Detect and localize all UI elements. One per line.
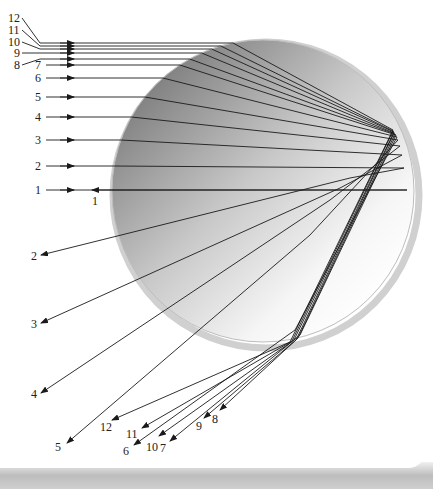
ray-diagram: 123456789101112123456789101112	[0, 0, 433, 489]
outgoing-label-11: 11	[126, 427, 138, 441]
outgoing-ray-7	[170, 335, 300, 441]
incoming-label-10: 10	[8, 35, 20, 49]
outgoing-label-12: 12	[100, 420, 112, 434]
outgoing-label-3: 3	[31, 317, 37, 331]
outgoing-label-9: 9	[196, 419, 202, 433]
incoming-label-6: 6	[35, 71, 41, 85]
incoming-label-7: 7	[35, 58, 41, 72]
outgoing-label-6: 6	[123, 444, 129, 458]
incoming-label-12: 12	[8, 11, 20, 25]
outgoing-label-2: 2	[31, 249, 37, 263]
leader-line-12	[22, 18, 40, 43]
outgoing-ray-10	[159, 340, 294, 436]
outgoing-ray-12	[112, 342, 290, 420]
outgoing-ray-9	[204, 340, 296, 418]
outgoing-label-7: 7	[160, 441, 166, 455]
incoming-label-8: 8	[14, 58, 20, 72]
incoming-label-2: 2	[35, 159, 41, 173]
incoming-label-4: 4	[35, 110, 41, 124]
outgoing-label-5: 5	[55, 440, 61, 454]
incoming-label-1: 1	[35, 183, 41, 197]
incoming-label-11: 11	[8, 23, 20, 37]
outgoing-label-8: 8	[212, 412, 218, 426]
outgoing-label-4: 4	[31, 387, 37, 401]
incoming-label-5: 5	[35, 90, 41, 104]
outgoing-label-1: 1	[92, 194, 98, 208]
leader-line-11	[22, 30, 40, 46]
outgoing-label-10: 10	[146, 440, 158, 454]
incoming-label-3: 3	[35, 133, 41, 147]
outgoing-ray-6	[134, 330, 295, 445]
